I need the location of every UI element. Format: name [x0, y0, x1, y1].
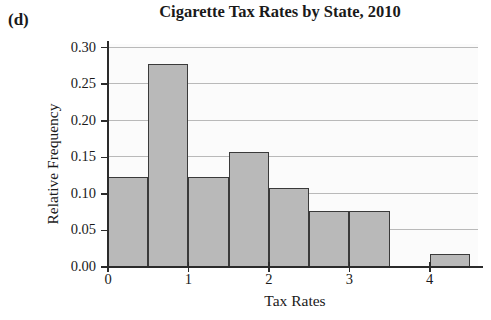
histogram-bar: [148, 64, 188, 267]
chart-title: Cigarette Tax Rates by State, 2010: [95, 2, 465, 22]
y-axis-tick: [101, 47, 108, 49]
histogram-bar: [349, 211, 389, 267]
y-axis-tick-label: 0.30: [36, 39, 96, 56]
histogram-bar: [188, 177, 228, 267]
histogram-bar: [309, 211, 349, 267]
x-axis-tick-label: 2: [249, 271, 289, 288]
histogram-bar: [108, 177, 148, 267]
gridline: [108, 47, 478, 48]
y-axis-line: [107, 41, 109, 270]
x-axis-line: [102, 266, 483, 268]
y-axis-tick: [101, 157, 108, 159]
x-axis-title: Tax Rates: [110, 292, 480, 310]
y-axis-tick-label: 0.10: [36, 185, 96, 202]
histogram-figure: (d) Cigarette Tax Rates by State, 2010 R…: [0, 0, 491, 320]
y-axis-tick: [101, 230, 108, 232]
panel-label: (d): [8, 10, 29, 30]
y-axis-tick-label: 0.25: [36, 75, 96, 92]
histogram-bar: [229, 152, 269, 267]
y-axis-tick: [101, 83, 108, 85]
x-axis-tick-label: 3: [329, 271, 369, 288]
x-axis-tick-label: 0: [88, 271, 128, 288]
y-axis-tick-label: 0.00: [36, 258, 96, 275]
y-axis-tick-label: 0.20: [36, 112, 96, 129]
y-axis-tick: [101, 120, 108, 122]
x-axis-tick-label: 4: [410, 271, 450, 288]
x-axis-tick-label: 1: [168, 271, 208, 288]
histogram-bar: [269, 188, 309, 267]
y-axis-tick-label: 0.05: [36, 221, 96, 238]
y-axis-tick: [101, 193, 108, 195]
y-axis-tick-label: 0.15: [36, 148, 96, 165]
plot-area: [108, 44, 478, 267]
